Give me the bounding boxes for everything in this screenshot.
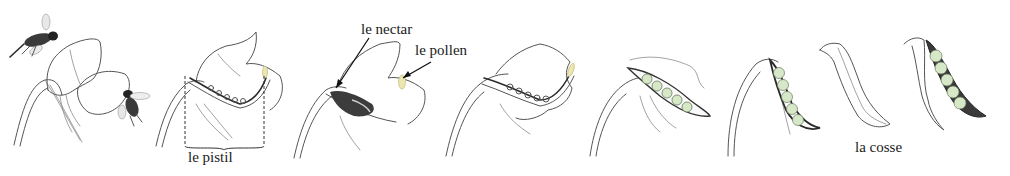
stage-1-flower-with-bees (10, 14, 150, 146)
stage-3-nectar-pollen (294, 38, 431, 158)
stage-7-closed-pod (820, 43, 890, 127)
illustration-stage: le pistil le nectar le pollen la cosse (0, 0, 1010, 176)
label-pistil: le pistil (188, 150, 233, 165)
stage-8-open-pod (904, 38, 986, 130)
label-pollen: le pollen (415, 43, 467, 58)
stage-4-ovules (446, 44, 576, 156)
stage-5-young-pod (590, 57, 710, 156)
label-nectar: le nectar (361, 22, 412, 37)
stage-2-pistil-section (156, 32, 282, 150)
stage-6-growing-pod (728, 59, 820, 156)
nectar-arrow (336, 38, 369, 88)
pollen-arrow (403, 62, 431, 78)
label-pod: la cosse (855, 140, 902, 155)
